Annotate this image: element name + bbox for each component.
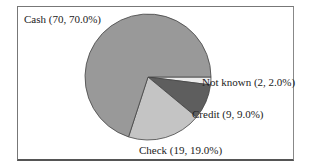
pie-slices xyxy=(85,14,211,140)
label-not-known: Not known (2, 2.0%) xyxy=(202,76,295,88)
label-cash: Cash (70, 70.0%) xyxy=(24,13,101,25)
label-credit: Credit (9, 9.0%) xyxy=(192,108,263,120)
label-check: Check (19, 19.0%) xyxy=(139,144,222,156)
